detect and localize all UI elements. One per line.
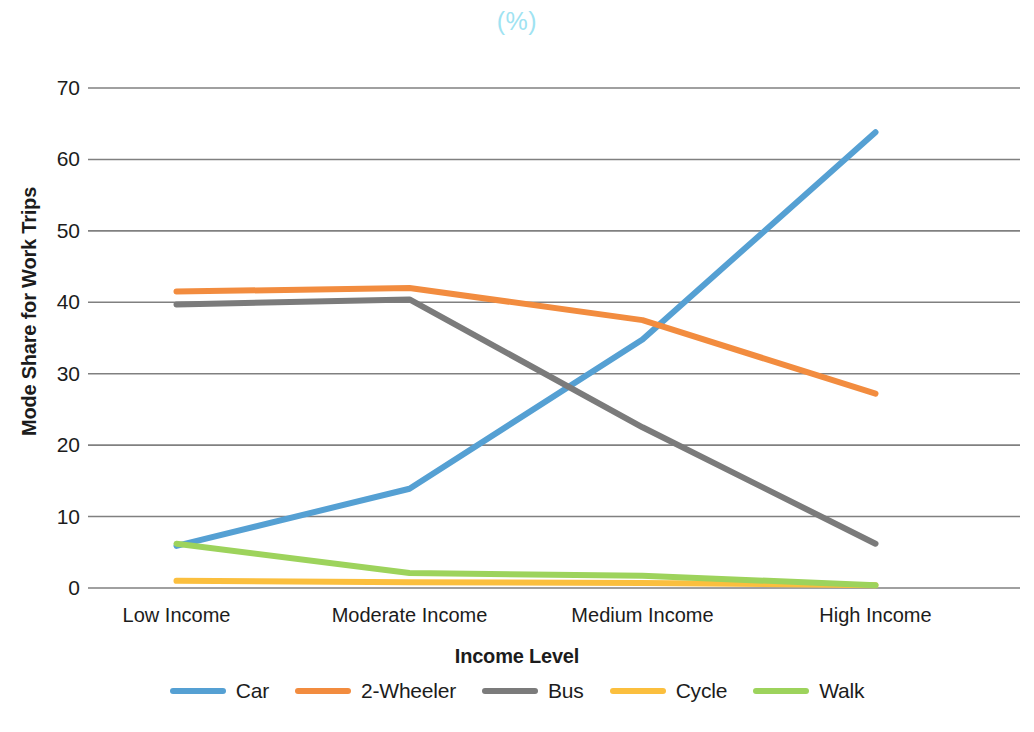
x-axis-title: Income Level [0,645,1034,668]
gridlines [88,88,1020,588]
x-tick-label: Moderate Income [280,604,540,627]
legend-item-cycle[interactable]: Cycle [610,679,728,703]
legend-label: 2-Wheeler [361,679,456,703]
x-tick-label: Medium Income [513,604,773,627]
line-chart: (%) Mode Share for Work Trips 7060504030… [0,0,1034,732]
legend-label: Cycle [676,679,728,703]
legend-item-car[interactable]: Car [170,679,269,703]
legend-swatch-icon [753,688,809,694]
legend-item-walk[interactable]: Walk [753,679,864,703]
legend-swatch-icon [170,688,226,694]
series-line-car [177,132,876,546]
x-axis-tick-labels: Low IncomeModerate IncomeMedium IncomeHi… [0,604,1034,638]
x-tick-label: Low Income [47,604,307,627]
legend-label: Walk [819,679,864,703]
legend-item-bus[interactable]: Bus [482,679,584,703]
legend-item-2-wheeler[interactable]: 2-Wheeler [295,679,456,703]
x-tick-label: High Income [746,604,1006,627]
legend-swatch-icon [482,688,538,694]
chart-legend: Car2-WheelerBusCycleWalk [0,679,1034,703]
legend-swatch-icon [610,688,666,694]
legend-label: Car [236,679,269,703]
legend-label: Bus [548,679,584,703]
series-line-bus [177,299,876,543]
legend-swatch-icon [295,688,351,694]
